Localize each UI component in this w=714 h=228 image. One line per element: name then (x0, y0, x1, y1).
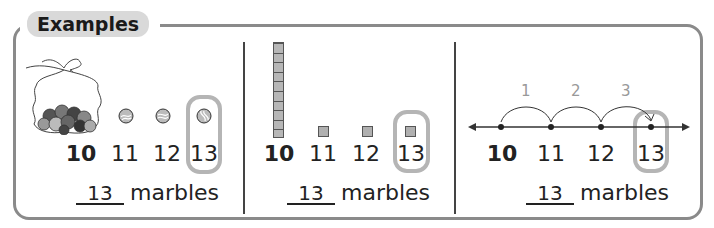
answer-value: 13 (287, 183, 335, 205)
jump-label-3: 3 (621, 82, 631, 100)
answer: 13marbles (526, 180, 669, 205)
number-11: 11 (303, 141, 343, 166)
ten-rod-icon (273, 42, 284, 138)
marble-bag-icon (24, 50, 114, 135)
jump-label-2: 2 (571, 82, 581, 100)
unit-cube-icon (318, 126, 329, 137)
marble-icon (118, 108, 134, 124)
number-11: 11 (531, 141, 571, 166)
divider-2 (454, 42, 456, 214)
marble-icon (155, 108, 171, 124)
marble-icon (196, 108, 212, 124)
answer-value: 13 (76, 183, 124, 205)
unit-cube-icon (405, 126, 416, 137)
answer-unit: marbles (130, 180, 219, 205)
answer-unit: marbles (341, 180, 430, 205)
number-12: 12 (346, 141, 386, 166)
number-12: 12 (147, 141, 187, 166)
number-line-graphic (460, 70, 700, 140)
jump-label-1: 1 (521, 82, 531, 100)
number-13: 13 (391, 141, 431, 166)
divider-1 (243, 42, 245, 214)
unit-cube-icon (362, 126, 373, 137)
number-10: 10 (61, 141, 101, 166)
examples-title: Examples (27, 11, 149, 37)
number-13: 13 (631, 141, 671, 166)
answer: 13marbles (76, 180, 219, 205)
answer-unit: marbles (580, 180, 669, 205)
number-10: 10 (482, 141, 522, 166)
number-10: 10 (259, 141, 299, 166)
number-12: 12 (581, 141, 621, 166)
answer: 13marbles (287, 180, 430, 205)
number-11: 11 (105, 141, 145, 166)
answer-value: 13 (526, 183, 574, 205)
number-13: 13 (184, 141, 224, 166)
